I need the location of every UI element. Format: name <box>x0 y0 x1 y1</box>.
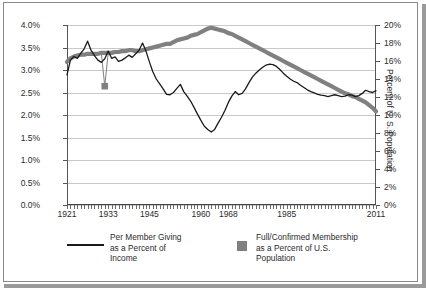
x-minor-tick <box>311 205 312 209</box>
y-tick-label-right: 20% <box>384 21 414 29</box>
y-tick-label-right: 16% <box>384 57 414 65</box>
x-minor-tick <box>270 205 271 209</box>
legend-label: Per Member Giving as a Percent of Income <box>110 232 181 264</box>
x-minor-tick <box>307 205 308 209</box>
x-minor-tick <box>321 205 322 209</box>
y-tick-label-left: 3.0% <box>0 66 40 74</box>
x-tick-label: 1960 <box>191 209 210 219</box>
y-tick-right <box>376 79 380 80</box>
x-minor-tick <box>88 205 89 209</box>
x-minor-tick <box>304 205 305 209</box>
x-minor-tick <box>352 205 353 209</box>
chart-frame: Percent of Income Percent of U. S. Popul… <box>3 2 418 282</box>
x-minor-tick <box>359 205 360 209</box>
x-minor-tick <box>170 205 171 209</box>
x-minor-tick <box>160 205 161 209</box>
y-tick-label-left: 0.0% <box>0 201 40 209</box>
y-tick-right <box>376 133 380 134</box>
x-minor-tick <box>342 205 343 209</box>
x-minor-tick <box>331 205 332 209</box>
x-minor-tick <box>297 205 298 209</box>
x-minor-tick <box>314 205 315 209</box>
x-tick-label: 1933 <box>99 209 118 219</box>
x-minor-tick <box>242 205 243 209</box>
y-tick-label-right: 10% <box>384 111 414 119</box>
x-minor-tick <box>122 205 123 209</box>
y-tick-right <box>376 25 380 26</box>
y-tick-label-left: 1.0% <box>0 156 40 164</box>
x-minor-tick <box>259 205 260 209</box>
frame-shadow-bottom <box>4 284 426 288</box>
y-tick-label-right: 4% <box>384 165 414 173</box>
y-tick-label-right: 2% <box>384 183 414 191</box>
x-minor-tick <box>119 205 120 209</box>
x-minor-tick <box>184 205 185 209</box>
x-minor-tick <box>349 205 350 209</box>
x-minor-tick <box>239 205 240 209</box>
y-tick-label-right: 18% <box>384 39 414 47</box>
x-minor-tick <box>180 205 181 209</box>
x-minor-tick <box>94 205 95 209</box>
x-tick-label: 1945 <box>140 209 159 219</box>
legend-line-swatch-icon <box>67 244 104 246</box>
x-minor-tick <box>125 205 126 209</box>
x-minor-tick <box>177 205 178 209</box>
x-minor-tick <box>335 205 336 209</box>
y-tick-label-left: 2.5% <box>0 89 40 97</box>
y-tick-label-right: 0% <box>384 201 414 209</box>
anomaly-connector <box>101 53 104 86</box>
x-minor-tick <box>252 205 253 209</box>
y-tick-label-right: 6% <box>384 147 414 155</box>
legend-label: Full/Confirmed Membership as a Percent o… <box>256 232 358 264</box>
x-tick-label: 1921 <box>58 209 77 219</box>
x-minor-tick <box>300 205 301 209</box>
x-minor-tick <box>263 205 264 209</box>
y-tick-right <box>376 115 380 116</box>
y-tick-label-right: 12% <box>384 93 414 101</box>
legend-entry: Full/Confirmed Membership as a Percent o… <box>237 232 358 264</box>
plot-area <box>67 25 376 205</box>
x-minor-tick <box>249 205 250 209</box>
x-minor-tick <box>187 205 188 209</box>
y-tick-right <box>376 169 380 170</box>
x-minor-tick <box>211 205 212 209</box>
membership-band-path <box>67 28 376 112</box>
x-minor-tick <box>132 205 133 209</box>
y-tick-label-left: 2.0% <box>0 111 40 119</box>
x-minor-tick <box>173 205 174 209</box>
x-minor-tick <box>328 205 329 209</box>
y-tick-label-left: 1.5% <box>0 134 40 142</box>
x-minor-tick <box>362 205 363 209</box>
x-minor-tick <box>136 205 137 209</box>
frame-shadow-right <box>422 4 426 288</box>
x-tick-label: 1985 <box>277 209 296 219</box>
x-minor-tick <box>325 205 326 209</box>
x-tick-label: 2011 <box>367 209 385 219</box>
x-minor-tick <box>345 205 346 209</box>
x-tick-label: 1968 <box>219 209 238 219</box>
x-minor-tick <box>84 205 85 209</box>
x-minor-tick <box>163 205 164 209</box>
y-tick-right <box>376 61 380 62</box>
y-axis-title-right: Percent of U. S. Population <box>385 69 395 172</box>
legend-entry: Per Member Giving as a Percent of Income <box>67 232 181 264</box>
y-tick-right <box>376 151 380 152</box>
x-minor-tick <box>91 205 92 209</box>
x-minor-tick <box>215 205 216 209</box>
y-tick-label-left: 0.5% <box>0 179 40 187</box>
y-tick-label-right: 14% <box>384 75 414 83</box>
chart-figure: Percent of Income Percent of U. S. Popul… <box>0 0 426 288</box>
x-minor-tick <box>338 205 339 209</box>
x-minor-tick <box>246 205 247 209</box>
x-minor-tick <box>256 205 257 209</box>
legend-square-swatch-icon <box>237 241 247 251</box>
series-plot <box>67 25 376 205</box>
x-minor-tick <box>77 205 78 209</box>
y-tick-label-right: 8% <box>384 129 414 137</box>
y-tick-right <box>376 97 380 98</box>
x-minor-tick <box>355 205 356 209</box>
y-tick-right <box>376 187 380 188</box>
anomaly-square-marker <box>101 83 108 90</box>
x-minor-tick <box>266 205 267 209</box>
x-minor-tick <box>129 205 130 209</box>
